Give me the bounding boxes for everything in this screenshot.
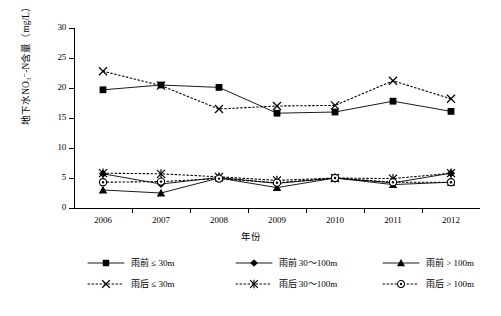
series-line [103, 178, 451, 183]
marker-circle-dot [273, 179, 280, 186]
y-tick-label: 15 [44, 113, 66, 122]
marker-asterisk [331, 173, 339, 182]
y-tick [69, 148, 75, 149]
legend-item[interactable]: 雨前 ≤ 30m [74, 257, 234, 269]
marker-diamond [273, 179, 281, 187]
legend-row: 雨前 ≤ 30m雨前 30～100m雨前 > 100m [74, 252, 480, 273]
legend-marker-circle-dot [381, 278, 421, 290]
x-axis-line [74, 208, 480, 209]
marker-triangle [331, 174, 339, 182]
x-tick [248, 208, 249, 213]
legend-item[interactable]: 雨前 30～100m [234, 257, 382, 269]
legend-item[interactable]: 雨后 ≤ 30m [74, 278, 234, 290]
chart-legend: 雨前 ≤ 30m雨前 30～100m雨前 > 100m雨后 ≤ 30m雨后 30… [74, 252, 480, 294]
marker-triangle [389, 180, 397, 188]
series-3 [99, 67, 455, 113]
legend-label: 雨前 30～100m [274, 258, 338, 268]
x-tick-label: 2010 [312, 215, 358, 225]
marker-triangle [273, 183, 281, 191]
y-tick-label: 25 [44, 53, 66, 62]
x-tick-label: 2012 [428, 215, 474, 225]
legend-marker-asterisk [234, 278, 274, 290]
marker-diamond [157, 180, 165, 188]
marker-diamond [250, 259, 258, 267]
marker-square [274, 110, 281, 117]
marker-circle-dot [215, 175, 222, 182]
y-axis-title: 地下水NO₃⁻-N含量（mg/L） [21, 0, 32, 144]
marker-circle-dot [331, 174, 338, 181]
marker-asterisk [215, 172, 223, 181]
legend-label: 雨后 30～100m [274, 279, 338, 289]
y-tick-label: 5 [44, 173, 66, 182]
x-tick-label: 2011 [370, 215, 416, 225]
marker-circle-dot [157, 178, 164, 185]
legend-item[interactable]: 雨前 > 100m [381, 257, 480, 269]
series-line [103, 173, 451, 184]
marker-cross [331, 101, 339, 109]
legend-item[interactable]: 雨后 30～100m [234, 278, 382, 290]
marker-triangle [99, 186, 107, 194]
y-tick-label: 0 [44, 203, 66, 212]
x-tick [422, 208, 423, 213]
x-tick [132, 208, 133, 213]
legend-label: 雨前 ≤ 30m [126, 258, 174, 268]
marker-square [332, 109, 339, 116]
marker-square [100, 86, 107, 93]
chart-figure: 302520151050 200620072008200920102011201… [0, 0, 501, 316]
x-axis-title: 年份 [0, 232, 501, 243]
legend-item[interactable]: 雨后 > 100m [381, 278, 480, 290]
marker-cross [447, 95, 455, 103]
y-tick [69, 28, 75, 29]
marker-triangle [447, 178, 455, 186]
marker-cross [273, 102, 281, 110]
legend-label: 雨后 ≤ 30m [126, 279, 174, 289]
y-tick [69, 118, 75, 119]
marker-triangle [157, 189, 165, 197]
marker-circle-dot [99, 179, 106, 186]
y-tick-label: 10 [44, 143, 66, 152]
y-tick [69, 58, 75, 59]
marker-cross [389, 77, 397, 85]
x-tick [306, 208, 307, 213]
legend-marker-cross [86, 278, 126, 290]
series-4 [99, 169, 455, 185]
x-tick-label: 2009 [254, 215, 300, 225]
x-tick [190, 208, 191, 213]
marker-square [390, 98, 397, 105]
x-tick-label: 2007 [138, 215, 184, 225]
marker-square [216, 84, 223, 91]
marker-triangle [215, 174, 223, 182]
y-tick [69, 178, 75, 179]
y-tick [69, 88, 75, 89]
legend-label: 雨后 > 100m [421, 279, 474, 289]
y-tick-label: 20 [44, 83, 66, 92]
series-5 [99, 174, 454, 186]
marker-diamond [99, 170, 107, 178]
marker-diamond [389, 179, 397, 187]
y-tick-label: 30 [44, 23, 66, 32]
marker-circle-dot [398, 280, 405, 287]
marker-cross [215, 105, 223, 113]
marker-square [448, 108, 455, 115]
marker-diamond [331, 174, 339, 182]
series-0 [100, 82, 455, 117]
marker-diamond [215, 173, 223, 181]
x-tick-label: 2006 [80, 215, 126, 225]
legend-marker-diamond [234, 257, 274, 269]
series-line [103, 178, 451, 193]
marker-asterisk [157, 169, 165, 178]
legend-marker-triangle [381, 257, 421, 269]
marker-square [103, 259, 109, 265]
marker-square [158, 82, 165, 89]
marker-circle-dot [389, 179, 396, 186]
marker-circle-dot [447, 179, 454, 186]
series-line [103, 85, 451, 113]
x-tick [364, 208, 365, 213]
marker-diamond [447, 169, 455, 177]
series-line [103, 173, 451, 180]
series-line [103, 71, 451, 109]
marker-asterisk [273, 176, 281, 185]
marker-asterisk [99, 169, 107, 178]
legend-marker-square [86, 257, 126, 269]
series-1 [99, 169, 455, 188]
